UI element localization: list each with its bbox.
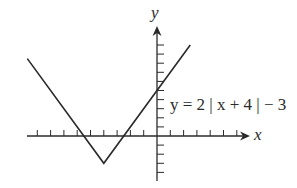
x-axis-label: x [254, 125, 262, 145]
function-graph-line [27, 45, 190, 163]
graph-canvas [0, 0, 297, 188]
x-axis-ticks [37, 130, 237, 136]
y-axis-ticks [157, 45, 164, 172]
y-axis-label: y [151, 3, 159, 23]
equation-label: y = 2 | x + 4 | − 3 [170, 95, 286, 115]
